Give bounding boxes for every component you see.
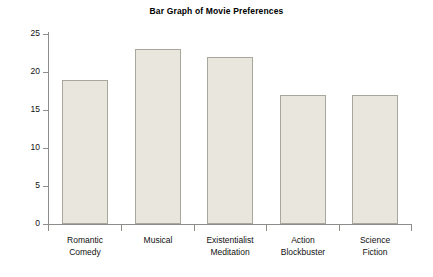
y-axis-line: [48, 32, 49, 225]
bar-science-fiction: [352, 95, 398, 224]
x-label-existentialist-meditation: Existentialist Meditation: [190, 235, 270, 258]
y-tick-20: [43, 72, 48, 73]
x-label-line-1: Science: [335, 235, 415, 247]
x-label-line-2: Blockbuster: [263, 247, 343, 259]
x-label-line-2: Comedy: [45, 247, 125, 259]
y-tick-label-20: 20: [16, 67, 40, 76]
y-tick-label-10: 10: [16, 143, 40, 152]
x-label-musical: Musical: [118, 235, 198, 247]
plot-area: 0 5 10 15 20 25: [0, 0, 433, 277]
y-tick-label-15: 15: [16, 105, 40, 114]
x-label-line-1: Romantic: [45, 235, 125, 247]
x-label-science-fiction: Science Fiction: [335, 235, 415, 258]
bar-action-blockbuster: [280, 95, 326, 224]
y-tick-label-5: 5: [16, 181, 40, 190]
x-label-line-1: Musical: [118, 235, 198, 247]
x-tick-2: [194, 225, 195, 231]
y-tick-5: [43, 186, 48, 187]
bar-romantic-comedy: [62, 80, 108, 224]
x-axis-line: [48, 224, 412, 225]
x-label-line-1: Action: [263, 235, 343, 247]
x-tick-0: [48, 225, 49, 231]
x-tick-1: [121, 225, 122, 231]
x-tick-3: [266, 225, 267, 231]
x-label-line-2: Meditation: [190, 247, 270, 259]
y-tick-15: [43, 110, 48, 111]
x-label-action-blockbuster: Action Blockbuster: [263, 235, 343, 258]
x-label-line-2: Fiction: [335, 247, 415, 259]
bar-musical: [135, 49, 181, 224]
x-tick-5: [411, 225, 412, 231]
x-tick-4: [339, 225, 340, 231]
bar-existentialist-meditation: [207, 57, 253, 224]
y-tick-10: [43, 148, 48, 149]
y-tick-label-0: 0: [16, 219, 40, 228]
x-label-romantic-comedy: Romantic Comedy: [45, 235, 125, 258]
bar-chart: Bar Graph of Movie Preferences 0 5 10 15…: [0, 0, 433, 277]
y-tick-25: [43, 34, 48, 35]
x-label-line-1: Existentialist: [190, 235, 270, 247]
y-tick-label-25: 25: [16, 29, 40, 38]
